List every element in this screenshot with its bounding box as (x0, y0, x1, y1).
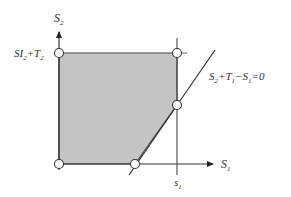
vertex-bottom-left (55, 160, 64, 169)
vertex-bottom-right (131, 160, 140, 169)
feasible-region (59, 53, 177, 164)
y-axis-label: S2 (54, 11, 64, 27)
y-intercept-label: SI2+T2 (14, 47, 44, 62)
feasible-region-diagram: S2 S1 SI2+T2 S2+T1−S1=0 s1 (0, 0, 291, 197)
vertex-right-middle (173, 101, 182, 110)
constraint-equation-label: S2+T1−S1=0 (209, 70, 265, 85)
vertex-top-right (173, 49, 182, 58)
vertex-top-left (55, 49, 64, 58)
x-axis-label: S1 (221, 157, 231, 173)
s1-tick-label: s1 (174, 176, 182, 191)
